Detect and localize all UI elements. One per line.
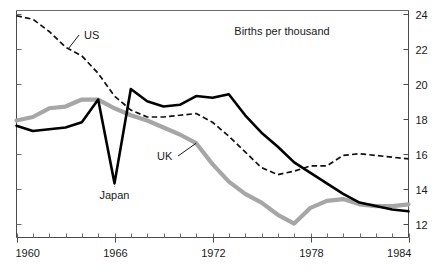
y-tick-label-14: 14: [416, 184, 428, 196]
chart-canvas: 12141618202224 19601966197219781984 US J…: [0, 0, 438, 272]
x-tick-label-1972: 1972: [201, 247, 225, 259]
x-tick-label-1966: 1966: [103, 247, 127, 259]
x-tick-label-1984: 1984: [387, 247, 411, 259]
x-tick-label-1960: 1960: [16, 247, 40, 259]
y-tick-label-18: 18: [416, 114, 428, 126]
chart-background: [0, 0, 438, 272]
series-label-us: US: [84, 29, 99, 41]
y-tick-label-22: 22: [416, 44, 428, 56]
births-per-thousand-chart: 12141618202224 19601966197219781984 US J…: [0, 0, 438, 272]
x-tick-label-1978: 1978: [299, 247, 323, 259]
y-tick-label-24: 24: [416, 9, 428, 21]
y-tick-label-20: 20: [416, 79, 428, 91]
series-label-japan: Japan: [100, 189, 130, 201]
chart-units-note: Births per thousand: [234, 25, 329, 37]
series-label-uk: UK: [157, 150, 173, 162]
y-tick-label-12: 12: [416, 219, 428, 231]
y-tick-label-16: 16: [416, 149, 428, 161]
